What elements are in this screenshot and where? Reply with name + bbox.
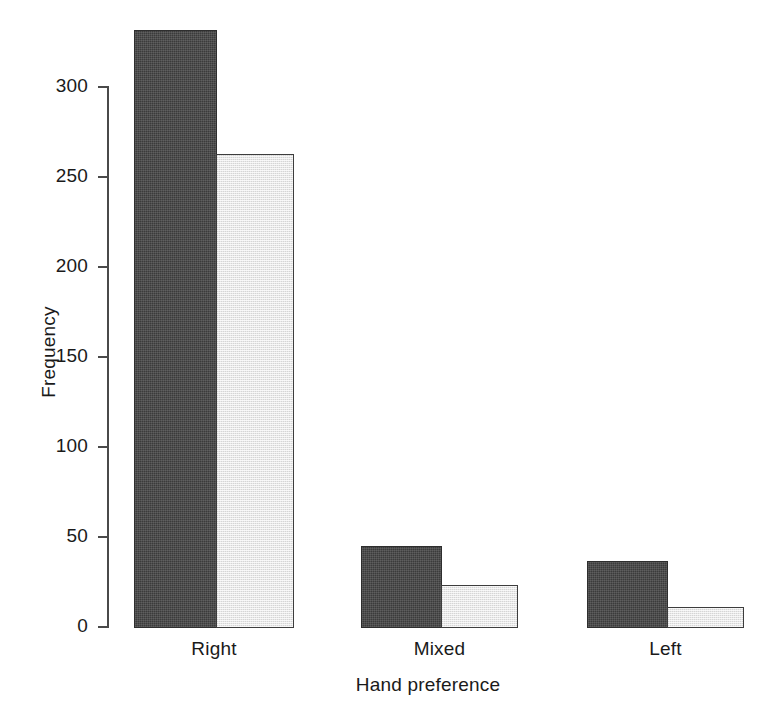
y-tick-group-300: 300 [0,87,92,88]
y-tick-group-150: 150 [0,357,92,358]
y-tick-mark-150 [98,356,108,358]
y-tick-mark-250 [98,176,108,178]
x-tick-label-right: Right [134,638,294,660]
bar-chart-figure: Frequency 300 250 200 150 100 50 0 Right… [0,0,773,720]
y-tick-group-200: 200 [0,267,92,268]
y-tick-group-100: 100 [0,447,92,448]
y-tick-group-50: 50 [0,537,92,538]
y-tick-mark-200 [98,266,108,268]
bar-left-light [667,607,744,628]
y-tick-group-0: 0 [0,627,92,628]
y-tick-label-300: 300 [0,75,88,97]
y-tick-label-150: 150 [0,345,88,367]
x-tick-label-left: Left [587,638,744,660]
y-tick-label-50: 50 [0,525,88,547]
y-tick-label-200: 200 [0,255,88,277]
x-tick-label-mixed: Mixed [361,638,518,660]
bar-mixed-dark [361,546,442,628]
y-tick-mark-50 [98,536,108,538]
bar-left-dark [587,561,668,628]
x-axis-title: Hand preference [108,674,748,696]
bar-right-dark [134,30,217,628]
y-tick-label-0: 0 [0,615,88,637]
y-tick-mark-300 [98,86,108,88]
bar-mixed-light [441,585,518,628]
y-tick-mark-100 [98,446,108,448]
y-tick-mark-0 [98,626,108,628]
y-tick-label-100: 100 [0,435,88,457]
y-tick-group-250: 250 [0,177,92,178]
y-tick-label-250: 250 [0,165,88,187]
bar-right-light [216,154,294,628]
